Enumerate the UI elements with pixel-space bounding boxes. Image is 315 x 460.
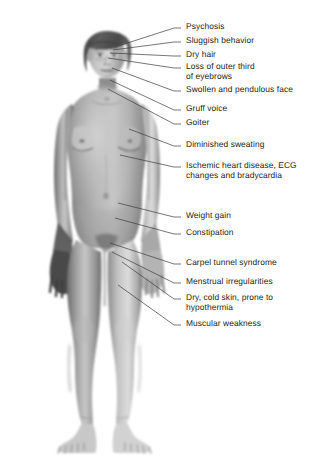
label-psychosis: Psychosis — [186, 22, 224, 32]
label-weight-gain: Weight gain — [186, 211, 231, 221]
label-muscular-weakness: Muscular weakness — [186, 319, 261, 329]
label-dry-cold-skin: Dry, cold skin, prone to hypothermia — [186, 293, 273, 312]
label-goiter: Goiter — [186, 118, 209, 128]
label-gruff-voice: Gruff voice — [186, 104, 227, 114]
hypothyroidism-diagram: PsychosisSluggish behaviorDry hairLoss o… — [0, 0, 315, 460]
label-sluggish-behavior: Sluggish behavior — [186, 36, 254, 46]
label-dry-hair: Dry hair — [186, 50, 216, 60]
label-carpel-tunnel-syndrome: Carpel tunnel syndrome — [186, 258, 277, 268]
label-constipation: Constipation — [186, 228, 234, 238]
label-ischemic-heart-disease: Ischemic heart disease, ECG changes and … — [186, 161, 297, 180]
label-layer: PsychosisSluggish behaviorDry hairLoss o… — [0, 0, 315, 460]
label-diminished-sweating: Diminished sweating — [186, 140, 264, 150]
label-swollen-and-pendulous-face: Swollen and pendulous face — [186, 85, 293, 95]
label-loss-of-outer-third-of-eyebrows: Loss of outer third of eyebrows — [186, 62, 255, 81]
label-menstrual-irregularities: Menstrual irregularities — [186, 277, 273, 287]
